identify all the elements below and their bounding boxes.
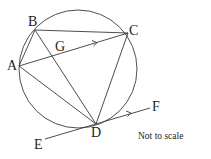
geometry-diagram: B C G A F D E Not to scale: [0, 0, 211, 159]
segment-ad: [19, 66, 96, 124]
segment-ab: [19, 30, 35, 66]
segment-cd: [96, 33, 128, 124]
not-to-scale-note: Not to scale: [138, 132, 183, 142]
label-f: F: [152, 100, 160, 114]
parallel-arrow-ef-icon: [126, 111, 131, 117]
label-g: G: [55, 40, 65, 54]
segment-bc: [35, 30, 128, 33]
segment-bd: [35, 30, 96, 124]
label-a: A: [7, 59, 17, 73]
label-b: B: [28, 15, 37, 29]
label-d: D: [91, 126, 101, 140]
label-c: C: [129, 24, 138, 38]
label-e: E: [34, 138, 43, 152]
segment-ac: [19, 33, 128, 66]
